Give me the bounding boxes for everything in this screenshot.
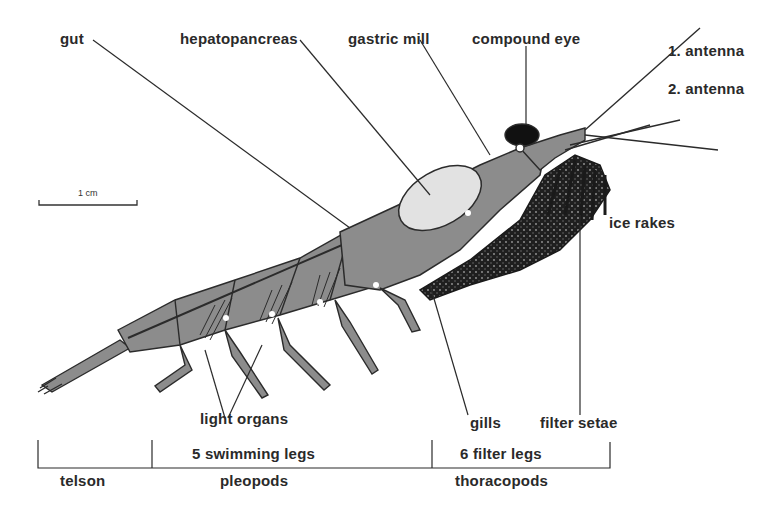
label-light-organs: light organs xyxy=(200,410,288,427)
label-antenna-2: 2. antenna xyxy=(668,80,744,97)
region-telson: telson xyxy=(60,472,105,489)
region-thoracopods: thoracopods xyxy=(455,472,548,489)
label-antenna-1: 1. antenna xyxy=(668,42,744,59)
label-ice-rakes: ice rakes xyxy=(609,214,675,231)
label-hepatopancreas: hepatopancreas xyxy=(180,30,298,47)
compound-eye xyxy=(505,124,539,146)
label-filter-setae: filter setae xyxy=(540,414,617,431)
krill-anatomy-diagram: 1 cm gut hepatopancreas gastric mill com… xyxy=(0,0,782,519)
scale-bar-label: 1 cm xyxy=(78,188,98,198)
label-gills: gills xyxy=(470,414,501,431)
label-compound-eye: compound eye xyxy=(472,30,580,47)
label-gastric-mill: gastric mill xyxy=(348,30,430,47)
scale-bar xyxy=(39,200,137,205)
telson xyxy=(38,340,130,394)
region-thoracopods-top: 6 filter legs xyxy=(460,445,542,462)
region-pleopods-top: 5 swimming legs xyxy=(192,445,315,462)
leader-lines xyxy=(93,40,580,418)
krill-illustration xyxy=(0,0,782,519)
region-pleopods: pleopods xyxy=(220,472,288,489)
label-gut: gut xyxy=(60,30,84,47)
